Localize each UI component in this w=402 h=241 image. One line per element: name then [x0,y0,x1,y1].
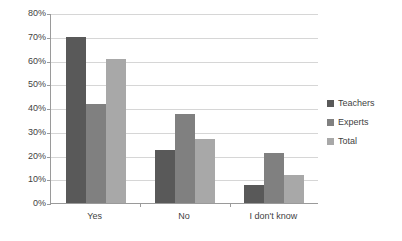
x-axis-category-label: No [139,211,228,221]
legend-swatch-icon [327,138,334,145]
y-axis-tick-label: 60% [2,57,46,66]
legend-item-label: Experts [338,118,369,127]
bar-teachers-0[interactable] [66,37,86,203]
legend-item-experts[interactable]: Experts [327,113,399,132]
chart-legend: TeachersExpertsTotal [327,94,399,151]
gridline [51,85,318,86]
plot-area [50,14,318,204]
bar-teachers-2[interactable] [244,185,264,203]
y-axis-tick-mark [47,204,51,205]
legend-item-label: Total [338,137,357,146]
bar-experts-2[interactable] [264,153,284,203]
bar-total-1[interactable] [195,139,215,203]
gridline [51,62,318,63]
x-axis-tick-mark [140,203,141,207]
bar-teachers-1[interactable] [155,150,175,203]
y-axis-tick-label: 10% [2,175,46,184]
y-axis-tick-mark [47,14,51,15]
y-axis-tick-mark [47,62,51,63]
legend-item-label: Teachers [338,99,375,108]
gridline [51,38,318,39]
legend-item-total[interactable]: Total [327,132,399,151]
y-axis-tick-mark [47,180,51,181]
x-axis-category-label: I don't know [229,211,318,221]
y-axis-tick-label: 30% [2,128,46,137]
y-axis-tick-mark [47,133,51,134]
chart-figure: 0%10%20%30%40%50%60%70%80% YesNoI don't … [0,0,402,241]
legend-swatch-icon [327,119,334,126]
y-axis-tick-label: 20% [2,152,46,161]
legend-item-teachers[interactable]: Teachers [327,94,399,113]
y-axis-tick-mark [47,157,51,158]
y-axis-tick-label: 50% [2,80,46,89]
y-axis-tick-label: 0% [2,199,46,208]
y-axis-tick-label: 40% [2,104,46,113]
legend-swatch-icon [327,100,334,107]
bar-total-2[interactable] [284,175,304,204]
bar-experts-1[interactable] [175,114,195,203]
gridline [51,14,318,15]
y-axis-tick-mark [47,85,51,86]
y-axis-tick-label: 80% [2,9,46,18]
y-axis-tick-mark [47,109,51,110]
x-axis-tick-mark [230,203,231,207]
bar-total-0[interactable] [106,59,126,203]
bar-experts-0[interactable] [86,104,106,203]
x-axis-category-label: Yes [50,211,139,221]
y-axis-tick-mark [47,38,51,39]
y-axis-tick-label: 70% [2,33,46,42]
